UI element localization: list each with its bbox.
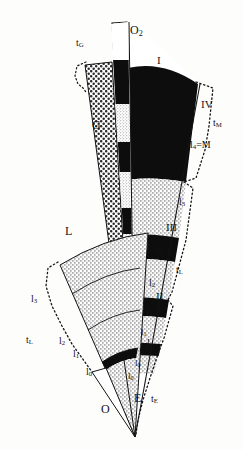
stratigraphic-fan-diagram [0,0,243,450]
label-l2-left: l2 [59,336,65,347]
label-O2: O2 [130,24,143,38]
label-IV: IV [201,99,213,110]
label-l3-right-lower: l3 [156,244,162,255]
label-O: O [101,403,110,415]
label-III: III [166,222,177,233]
label-l2-right-lower: l2 [146,306,152,317]
label-t-L-right: tL [176,265,183,276]
label-l3-left: l3 [31,294,37,305]
label-t-L-left: tL [26,335,33,346]
label-l1-left: l1 [73,349,79,360]
label-E: E [134,392,141,404]
label-I-top: I [157,55,161,66]
label-l3-right-upper: l3 [179,197,185,208]
label-t-M: tM [213,118,222,129]
zone-IV-black [128,66,198,182]
label-t-G: tG [76,38,84,49]
label-l0-right-upper: l0 [135,359,141,368]
dotted-bracket-tG [75,62,86,92]
label-l4-eq-M: l4=M [190,140,211,151]
label-l1-right-lower: l1 [139,347,145,356]
label-G: G [92,119,101,131]
label-l2-right-upper: l2 [149,278,155,289]
label-t-E: tE [151,394,158,405]
label-L: L [65,225,72,237]
label-l1-right: l1 [141,328,147,337]
label-I-right: I [147,338,150,347]
label-l0-right-lower: l0 [128,372,134,381]
label-l0-left: l0 [86,367,92,378]
label-II: II [156,291,163,302]
